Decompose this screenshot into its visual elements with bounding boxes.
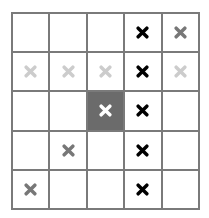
grid-cell-r3-c1[interactable]	[50, 132, 85, 169]
grid-cell-r4-c0[interactable]	[13, 171, 48, 208]
grid-cell-r4-c2[interactable]	[88, 171, 123, 208]
x-mark-icon	[136, 104, 149, 117]
x-mark-icon	[24, 65, 37, 78]
x-mark-icon	[99, 65, 112, 78]
x-mark-icon	[24, 183, 37, 196]
x-mark-icon	[136, 26, 149, 39]
grid-cell-r3-c3[interactable]	[125, 132, 160, 169]
grid-cell-r1-c1[interactable]	[50, 53, 85, 90]
grid-cell-r3-c4[interactable]	[163, 132, 198, 169]
grid-cell-r4-c3[interactable]	[125, 171, 160, 208]
grid-cell-r2-c1[interactable]	[50, 92, 85, 129]
grid-cell-r2-c2[interactable]	[88, 92, 123, 129]
grid-cell-r0-c0[interactable]	[13, 14, 48, 51]
grid-cell-r3-c2[interactable]	[88, 132, 123, 169]
game-board	[11, 12, 200, 210]
x-mark-icon	[174, 26, 187, 39]
grid-cell-r0-c3[interactable]	[125, 14, 160, 51]
x-mark-icon	[136, 144, 149, 157]
grid-cell-r2-c0[interactable]	[13, 92, 48, 129]
x-mark-icon	[62, 65, 75, 78]
grid-cell-r0-c1[interactable]	[50, 14, 85, 51]
x-mark-icon	[174, 65, 187, 78]
grid-cell-r1-c4[interactable]	[163, 53, 198, 90]
x-mark-icon	[136, 183, 149, 196]
grid-cell-r0-c4[interactable]	[163, 14, 198, 51]
grid-cell-r1-c2[interactable]	[88, 53, 123, 90]
x-mark-icon	[62, 144, 75, 157]
grid-cell-r2-c4[interactable]	[163, 92, 198, 129]
grid-cell-r1-c0[interactable]	[13, 53, 48, 90]
grid-cell-r2-c3[interactable]	[125, 92, 160, 129]
grid-cell-r0-c2[interactable]	[88, 14, 123, 51]
x-mark-icon	[99, 104, 112, 117]
x-mark-icon	[136, 65, 149, 78]
grid-cell-r4-c4[interactable]	[163, 171, 198, 208]
grid-cell-r3-c0[interactable]	[13, 132, 48, 169]
grid-cell-r1-c3[interactable]	[125, 53, 160, 90]
grid-cell-r4-c1[interactable]	[50, 171, 85, 208]
